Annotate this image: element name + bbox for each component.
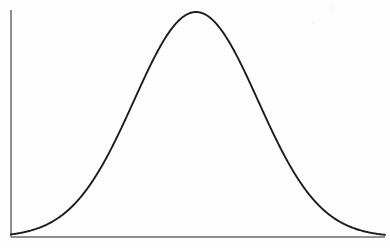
bell-curve-figure xyxy=(0,0,390,248)
plot-background xyxy=(0,0,390,248)
normal-distribution-plot xyxy=(0,0,390,248)
